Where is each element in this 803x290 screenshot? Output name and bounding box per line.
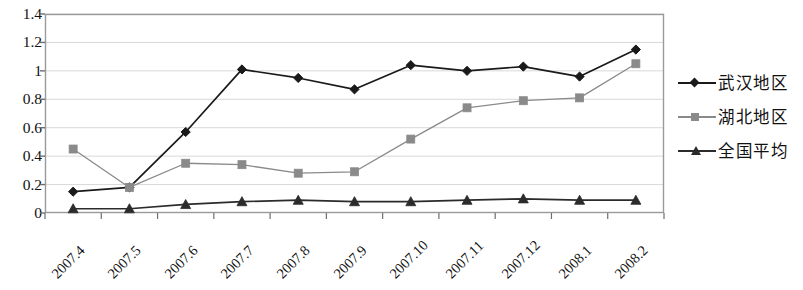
- line-chart: 00.20.40.60.811.21.4 2007.42007.52007.62…: [0, 0, 803, 290]
- data-point-marker: [463, 104, 471, 112]
- data-point-marker: [519, 97, 527, 105]
- data-point-marker: [351, 168, 359, 176]
- chart-legend: 武汉地区湖北地区全国平均: [676, 66, 801, 168]
- triangle-marker-icon: [691, 146, 701, 155]
- data-point-marker: [125, 183, 133, 191]
- legend-symbol: [676, 110, 718, 124]
- legend-label: 湖北地区: [718, 108, 788, 126]
- legend-label: 武汉地区: [718, 74, 788, 92]
- square-marker-icon: [691, 113, 699, 121]
- data-point-marker: [632, 60, 640, 68]
- data-point-marker: [294, 169, 302, 177]
- legend-symbol: [676, 144, 718, 158]
- legend-item-3: 全国平均: [676, 134, 801, 168]
- legend-item-1: 武汉地区: [676, 66, 801, 100]
- data-point-marker: [407, 135, 415, 143]
- data-point-marker: [69, 145, 77, 153]
- data-point-marker: [576, 94, 584, 102]
- data-point-marker: [182, 159, 190, 167]
- data-point-marker: [238, 161, 246, 169]
- diamond-marker-icon: [690, 78, 700, 88]
- legend-item-2: 湖北地区: [676, 100, 801, 134]
- legend-label: 全国平均: [718, 142, 788, 160]
- legend-symbol: [676, 76, 718, 90]
